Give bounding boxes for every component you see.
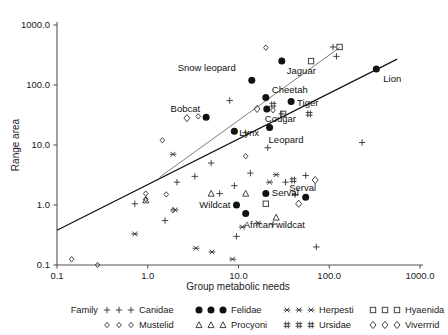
- y-axis-title: Range area: [10, 118, 21, 171]
- x-axis-title: Group metabolic needs: [186, 281, 289, 292]
- data-point: [132, 201, 138, 207]
- data-point: [262, 190, 269, 197]
- data-point: [164, 192, 169, 197]
- legend: Family Canidae Mustelid Felidae Procyoni…: [0, 302, 448, 335]
- legend-label: Mustelid: [139, 320, 174, 330]
- legend-entry-hyaenida[interactable]: Hyaenida: [368, 305, 448, 315]
- data-point: [288, 98, 295, 105]
- data-point: [193, 246, 200, 251]
- data-point: [196, 114, 201, 119]
- plot-canvas: 0.11.010.0100.01000.00.11.010.0100.01000…: [0, 0, 448, 335]
- data-point: [282, 179, 288, 185]
- legend-entry-procyoni[interactable]: Procyoni: [194, 320, 282, 330]
- data-point: [243, 190, 249, 196]
- point-label-lynx: Lynx: [239, 127, 259, 138]
- data-point: [231, 182, 237, 188]
- data-point: [247, 170, 253, 176]
- data-point: [273, 172, 280, 177]
- legend-label: Hyaenida: [405, 305, 444, 315]
- point-label-african-wildcat: African wildcat: [244, 219, 306, 230]
- data-point: [266, 180, 273, 185]
- legend-entry-ursidae[interactable]: Ursidae: [282, 320, 368, 330]
- data-point: [160, 138, 165, 143]
- data-point: [203, 114, 210, 121]
- legend-label: Canidae: [139, 305, 174, 315]
- y-tick-label: 1.0: [37, 199, 50, 210]
- data-point: [359, 139, 365, 145]
- axes: 0.11.010.0100.01000.00.11.010.0100.01000…: [21, 19, 435, 281]
- data-point: [373, 65, 380, 72]
- legend-label: Ursidae: [319, 320, 351, 330]
- point-label-lion: Lion: [383, 73, 401, 84]
- data-point: [143, 191, 148, 196]
- point-label-snow-leopard: Snow leopard: [178, 62, 236, 73]
- data-point: [265, 145, 271, 151]
- y-tick-label: 100.0: [26, 79, 50, 90]
- data-point: [227, 97, 233, 103]
- legend-label: Viverrrid: [405, 320, 439, 330]
- series-mustelid: [69, 45, 275, 268]
- data-point: [216, 190, 222, 196]
- data-point: [209, 250, 216, 255]
- point-labels: BobcatLynxSnow leopardCheetahCougarLeopa…: [171, 62, 402, 229]
- data-point: [208, 190, 214, 196]
- plus-icon: [102, 305, 136, 315]
- legend-label: Felidae: [231, 305, 262, 315]
- y-tick-label: 1000.0: [21, 19, 50, 30]
- filled-circle-icon: [194, 305, 228, 315]
- x-tick-label: 100.0: [317, 270, 341, 281]
- data-point: [330, 44, 336, 50]
- x-tick-label: 0.1: [50, 270, 63, 281]
- data-points: [69, 44, 379, 268]
- point-label-leopard: Leopard: [269, 134, 304, 145]
- data-point: [242, 210, 249, 217]
- legend-entry-mustelid[interactable]: Mustelid: [102, 320, 194, 330]
- data-point: [233, 233, 239, 239]
- data-point: [170, 152, 177, 157]
- y-tick-label: 0.1: [37, 259, 50, 270]
- open-triangle-icon: [194, 320, 228, 330]
- asterisk-icon: [282, 305, 316, 315]
- data-point: [296, 200, 302, 207]
- data-point: [278, 58, 285, 65]
- point-label-jaguar: Jaguar: [287, 65, 316, 76]
- legend-grid: Family Canidae Mustelid Felidae Procyoni…: [56, 302, 448, 332]
- data-point: [263, 105, 270, 112]
- legend-entry-viverrrid[interactable]: Viverrrid: [368, 320, 448, 330]
- point-label-tiger: Tiger: [297, 97, 318, 108]
- open-square-icon: [368, 305, 402, 315]
- data-point: [243, 154, 248, 159]
- data-point: [231, 128, 238, 135]
- double-plus-icon: [282, 320, 316, 330]
- legend-entry-felidae[interactable]: Felidae: [194, 305, 282, 315]
- point-label-wildcat: Wildcat: [199, 199, 231, 210]
- data-point: [264, 45, 269, 50]
- y-tick-label: 10.0: [32, 139, 51, 150]
- x-tick-label: 1000.0: [405, 270, 434, 281]
- legend-entry-herpesti[interactable]: Herpesti: [282, 305, 368, 315]
- data-point: [248, 77, 255, 84]
- data-point: [306, 110, 313, 117]
- data-point: [174, 179, 180, 185]
- legend-title: Family: [56, 305, 102, 315]
- data-point: [266, 124, 273, 131]
- small-diamond-icon: [102, 320, 136, 330]
- x-tick-label: 10.0: [229, 270, 248, 281]
- data-point: [302, 172, 308, 178]
- point-label-serval: Serval: [289, 182, 316, 193]
- data-point: [262, 94, 269, 101]
- legend-label: Procyoni: [231, 320, 267, 330]
- legend-label: Herpesti: [319, 305, 354, 315]
- open-diamond-icon: [368, 320, 402, 330]
- data-point: [313, 244, 319, 250]
- data-point: [233, 202, 240, 209]
- legend-entry-canidae[interactable]: Canidae: [102, 305, 194, 315]
- data-point: [333, 53, 339, 59]
- point-label-cougar: Cougar: [265, 113, 296, 124]
- data-point: [184, 115, 190, 122]
- point-label-bobcat: Bobcat: [171, 103, 201, 114]
- scatter-plot-figure: 0.11.010.0100.01000.00.11.010.0100.01000…: [0, 0, 448, 335]
- data-point: [131, 231, 138, 236]
- x-tick-label: 1.0: [141, 270, 154, 281]
- data-point: [69, 256, 74, 261]
